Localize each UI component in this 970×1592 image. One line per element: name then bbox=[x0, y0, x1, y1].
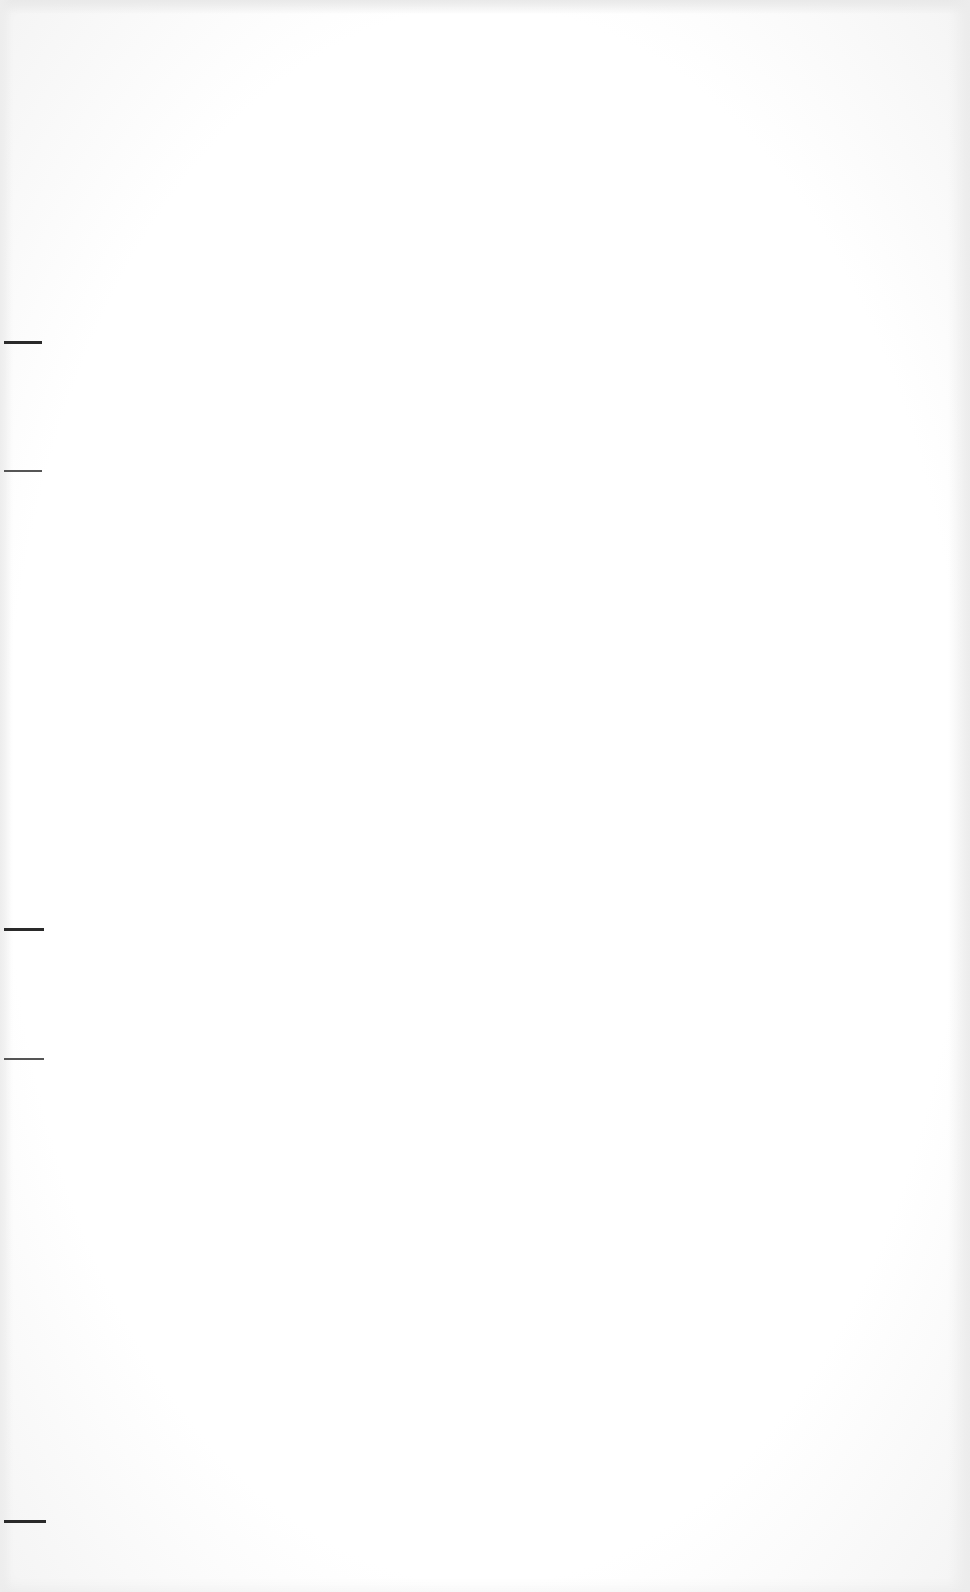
margin-mark bbox=[4, 341, 42, 344]
margin-mark bbox=[4, 928, 44, 931]
margin-mark bbox=[4, 1520, 46, 1523]
scan-edge-top bbox=[0, 0, 970, 14]
margin-mark bbox=[4, 1058, 44, 1060]
blank-page bbox=[0, 0, 970, 1592]
scan-edge-right bbox=[948, 0, 970, 1592]
scan-edge-left bbox=[0, 0, 12, 1592]
margin-mark bbox=[4, 470, 42, 472]
